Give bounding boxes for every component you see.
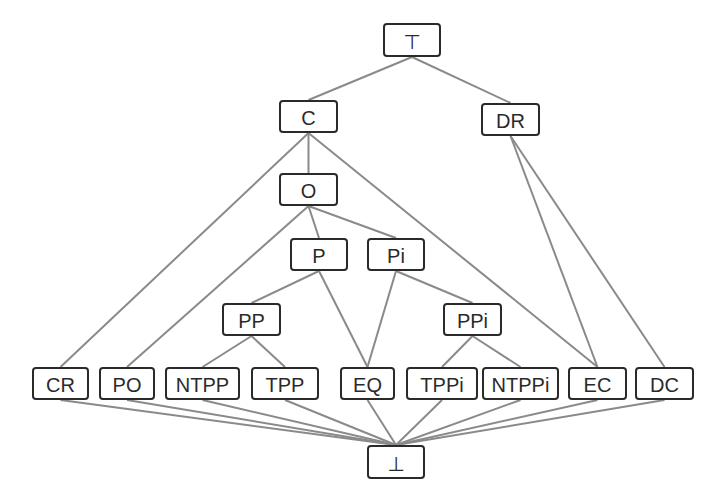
node-EQ: EQ: [340, 367, 395, 400]
node-label: C: [301, 105, 315, 128]
edge-DR-DC: [511, 136, 665, 367]
edge-top-DR: [412, 57, 511, 103]
edge-PO-bottom: [127, 400, 396, 445]
node-label: O: [301, 178, 317, 201]
node-bottom: ⊥: [367, 445, 425, 479]
node-label: DC: [650, 372, 679, 395]
bottom-symbol: ⊥: [387, 451, 404, 474]
edge-P-EQ: [319, 271, 368, 367]
edge-PPi-NTPPi: [473, 336, 521, 367]
node-TPPi: TPPi: [406, 367, 478, 400]
edge-Pi-PPi: [396, 271, 473, 303]
node-label: NTPPi: [492, 372, 550, 395]
edge-NTPPi-bottom: [396, 400, 521, 445]
node-label: DR: [496, 108, 525, 131]
node-CR: CR: [32, 367, 89, 400]
top-symbol: ⊤: [403, 29, 420, 52]
lattice-edges: [0, 0, 715, 499]
node-label: CR: [46, 372, 75, 395]
node-DC: DC: [635, 367, 694, 400]
edge-Pi-EQ: [368, 271, 397, 367]
edge-O-Pi: [309, 206, 397, 238]
node-PP: PP: [222, 303, 281, 336]
node-C: C: [279, 100, 338, 133]
node-label: PPi: [457, 308, 488, 331]
edge-top-C: [309, 57, 413, 100]
node-label: NTPP: [176, 372, 229, 395]
node-DR: DR: [481, 103, 540, 136]
node-label: TPP: [266, 372, 305, 395]
node-EC: EC: [568, 367, 627, 400]
node-O: O: [279, 173, 338, 206]
edge-PP-TPP: [252, 336, 286, 367]
node-PO: PO: [99, 367, 155, 400]
node-NTPP: NTPP: [165, 367, 240, 400]
edge-O-P: [309, 206, 320, 238]
node-label: TPPi: [420, 372, 463, 395]
node-NTPPi: NTPPi: [482, 367, 559, 400]
node-label: P: [312, 243, 325, 266]
node-P: P: [290, 238, 348, 271]
edge-O-PO: [127, 206, 309, 367]
node-label: PO: [113, 372, 142, 395]
edge-P-PP: [252, 271, 320, 303]
node-label: EQ: [353, 372, 382, 395]
node-PPi: PPi: [443, 303, 502, 336]
edge-PPi-TPPi: [442, 336, 473, 367]
node-label: EC: [584, 372, 612, 395]
node-label: Pi: [387, 243, 405, 266]
node-Pi: Pi: [367, 238, 425, 271]
node-top: ⊤: [383, 23, 441, 57]
node-label: PP: [238, 308, 265, 331]
edge-EC-bottom: [396, 400, 598, 445]
edge-PP-NTPP: [203, 336, 252, 367]
node-TPP: TPP: [251, 367, 319, 400]
